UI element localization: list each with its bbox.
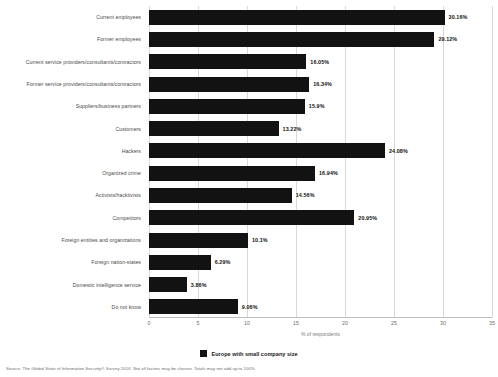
bar-chart: Current employeesFormer employeesCurrent… <box>0 0 498 377</box>
bar-value-label: 10.1% <box>252 237 268 243</box>
legend-label: Europe with small company size <box>211 351 297 357</box>
chart-legend: Europe with small company size <box>0 350 498 357</box>
category-label: Activists/hacktivists <box>96 184 141 206</box>
bar-row: 13.22% <box>149 118 492 140</box>
category-label: Foreign nation-states <box>91 251 141 273</box>
x-axis-title: % of respondents <box>149 331 492 337</box>
bar-row: 30.16% <box>149 6 492 28</box>
bar-value-label: 13.22% <box>283 126 302 132</box>
x-tick-label: 0 <box>148 320 151 326</box>
x-tick-label: 10 <box>244 320 250 326</box>
category-label: Customers <box>115 118 141 140</box>
bar-row: 6.29% <box>149 251 492 273</box>
gridline <box>492 6 493 318</box>
bar <box>149 299 238 314</box>
bar-value-label: 16.34% <box>313 81 332 87</box>
category-label: Organized crime <box>102 162 141 184</box>
bar-row: 16.34% <box>149 73 492 95</box>
bar <box>149 99 305 114</box>
x-tick-label: 25 <box>391 320 397 326</box>
x-tick-label: 5 <box>197 320 200 326</box>
category-label: Competitors <box>112 207 141 229</box>
x-tick-label: 30 <box>440 320 446 326</box>
bar <box>149 54 306 69</box>
bar-rows: 30.16%29.12%16.05%16.34%15.9%13.22%24.08… <box>149 6 492 318</box>
bar-value-label: 6.29% <box>215 259 231 265</box>
bar-value-label: 24.08% <box>389 148 408 154</box>
source-note: Source: The Global State of Information … <box>6 366 256 371</box>
category-label: Domestic intelligence service <box>73 274 141 296</box>
x-tick-label: 35 <box>489 320 495 326</box>
category-label: Suppliers/business partners <box>76 95 141 117</box>
bar-row: 10.1% <box>149 229 492 251</box>
bar-row: 16.94% <box>149 162 492 184</box>
category-label: Former service providers/consultants/con… <box>26 73 141 95</box>
category-label: Foreign entities and organizations <box>61 229 141 251</box>
bar <box>149 166 315 181</box>
bar-value-label: 29.12% <box>438 36 457 42</box>
bar-value-label: 3.86% <box>191 282 207 288</box>
bar <box>149 77 309 92</box>
legend-swatch-icon <box>200 350 207 357</box>
bar <box>149 233 248 248</box>
category-label: Current employees <box>96 6 141 28</box>
category-label: Current service providers/consultants/co… <box>26 51 141 73</box>
bar <box>149 121 279 136</box>
bar <box>149 255 211 270</box>
bar-value-label: 20.95% <box>358 215 377 221</box>
bar <box>149 188 292 203</box>
bar-row: 3.86% <box>149 274 492 296</box>
bar-value-label: 30.16% <box>449 14 468 20</box>
x-axis-line <box>149 317 492 318</box>
bar-row: 20.95% <box>149 207 492 229</box>
x-tick-label: 20 <box>342 320 348 326</box>
bar-value-label: 15.9% <box>309 103 325 109</box>
category-label: Former employees <box>97 28 141 50</box>
bar-row: 15.9% <box>149 95 492 117</box>
bar <box>149 32 434 47</box>
bar <box>149 277 187 292</box>
bar-row: 29.12% <box>149 28 492 50</box>
bar-row: 16.05% <box>149 51 492 73</box>
bar-row: 14.56% <box>149 184 492 206</box>
bar-row: 9.06% <box>149 296 492 318</box>
category-label: Do not know <box>112 296 141 318</box>
bar-value-label: 9.06% <box>242 304 258 310</box>
category-axis-labels: Current employeesFormer employeesCurrent… <box>0 6 145 318</box>
bar <box>149 10 445 25</box>
plot-area: 30.16%29.12%16.05%16.34%15.9%13.22%24.08… <box>149 6 492 318</box>
bar-value-label: 16.05% <box>310 59 329 65</box>
category-label: Hackers <box>122 140 141 162</box>
bar <box>149 143 385 158</box>
x-tick-label: 15 <box>293 320 299 326</box>
bar <box>149 210 354 225</box>
bar-value-label: 14.56% <box>296 192 315 198</box>
bar-row: 24.08% <box>149 140 492 162</box>
bar-value-label: 16.94% <box>319 170 338 176</box>
